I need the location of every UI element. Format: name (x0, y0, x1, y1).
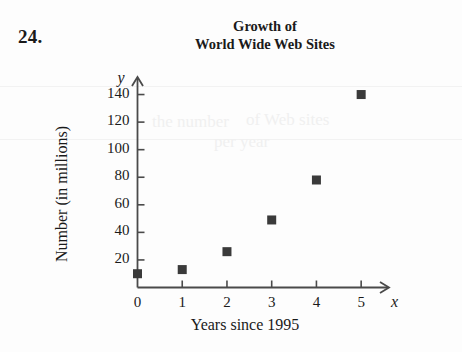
ticks-group (138, 95, 362, 288)
x-axis-tick-label: 1 (162, 294, 202, 311)
x-axis-tick-label: 0 (118, 294, 158, 311)
y-axis-title: Number (in millions) (53, 84, 71, 304)
data-point-marker (133, 269, 142, 278)
x-axis-title: Years since 1995 (120, 316, 370, 334)
data-point-marker (357, 90, 366, 99)
x-axis-tick-label: 5 (341, 294, 381, 311)
y-axis-tick-label: 140 (78, 85, 130, 102)
y-axis-variable-label: y (118, 69, 125, 87)
data-markers-group (133, 90, 366, 278)
x-axis-tick-label: 3 (252, 294, 292, 311)
chart-title-line-2: World Wide Web Sites (150, 35, 380, 53)
data-point-marker (267, 215, 276, 224)
y-axis-tick-label: 120 (78, 112, 130, 129)
y-axis-tick-label: 100 (78, 140, 130, 157)
problem-number: 24. (18, 26, 43, 48)
chart-title-line-1: Growth of (150, 17, 380, 35)
chart-title: Growth of World Wide Web Sites (150, 17, 380, 53)
axes-group (132, 77, 389, 293)
x-axis-variable-label: x (391, 293, 398, 311)
y-axis-tick-label: 80 (78, 167, 130, 184)
data-point-marker (178, 265, 187, 274)
data-point-marker (222, 247, 231, 256)
y-axis-tick-label: 60 (78, 195, 130, 212)
y-axis-tick-label: 20 (78, 250, 130, 267)
y-axis-tick-label: 40 (78, 222, 130, 239)
data-point-marker (312, 175, 321, 184)
x-axis-tick-label: 4 (296, 294, 336, 311)
x-axis-tick-label: 2 (207, 294, 247, 311)
